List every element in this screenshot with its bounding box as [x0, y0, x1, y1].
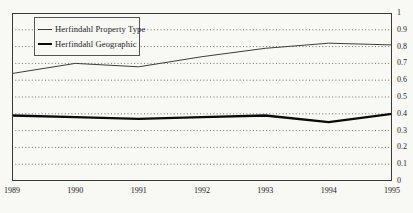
thin-line-sample-icon [38, 29, 52, 30]
y-tick-label: 0.1 [397, 160, 413, 168]
y-tick-label: 1 [397, 9, 413, 17]
thick-line-sample-icon [38, 43, 52, 45]
y-tick-label: 0.3 [397, 127, 413, 135]
x-tick-label: 1990 [60, 186, 90, 195]
y-tick-label: 0.5 [397, 93, 413, 101]
y-tick-label: 0.8 [397, 43, 413, 51]
x-tick-label: 1991 [124, 186, 154, 195]
legend-entry-property-type: Herfindahl Property Type [38, 24, 136, 34]
y-tick-label: 0.6 [397, 76, 413, 84]
x-tick-label: 1994 [314, 186, 344, 195]
y-tick-label: 0.9 [397, 26, 413, 34]
chart-figure: Herfindahl Property Type Herfindahl Geog… [0, 0, 413, 213]
x-tick-label: 1995 [377, 186, 407, 195]
y-tick-label: 0.7 [397, 59, 413, 67]
legend-entry-geographic: Herfindahl Geographic [38, 39, 136, 49]
y-tick-label: 0 [397, 177, 413, 185]
y-tick-label: 0.4 [397, 110, 413, 118]
legend-label-property-type: Herfindahl Property Type [55, 24, 145, 34]
x-tick-label: 1993 [250, 186, 280, 195]
x-tick-label: 1989 [0, 186, 27, 195]
y-tick-label: 0.2 [397, 143, 413, 151]
x-tick-label: 1992 [187, 186, 217, 195]
legend-label-geographic: Herfindahl Geographic [55, 39, 137, 49]
legend: Herfindahl Property Type Herfindahl Geog… [34, 17, 140, 56]
